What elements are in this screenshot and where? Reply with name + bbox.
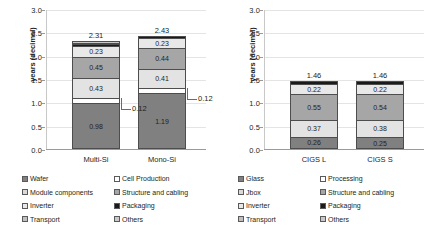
bar-segment[interactable]: 0.22 [356, 84, 404, 94]
legend-item[interactable]: Module components [22, 189, 114, 196]
legend-item[interactable]: Inverter [238, 202, 320, 209]
segment-value-label: 0.26 [307, 139, 321, 146]
segment-value-label: 0.22 [373, 86, 387, 93]
bar-segment[interactable]: 0.43 [72, 78, 120, 98]
segment-value-label: 0.37 [307, 125, 321, 132]
legend-swatch-icon [22, 189, 28, 195]
legend-swatch-icon [238, 203, 244, 209]
plot-area-right: 0.220.550.370.261.460.220.540.380.251.46 [264, 10, 424, 150]
callout-value-label: 0.12 [132, 104, 147, 113]
bar-segment[interactable]: 0.23 [138, 38, 186, 49]
bar-segment[interactable]: 0.54 [356, 94, 404, 119]
segment-value-label: 0.43 [89, 85, 103, 92]
legend-right: GlassProcessingJboxStructure and cabling… [238, 172, 430, 226]
y-tick-mark [260, 10, 263, 11]
gridline [264, 10, 424, 11]
y-tick-label: 0.5 [249, 122, 260, 131]
y-tick-mark [42, 103, 45, 104]
legend-item[interactable]: Transport [22, 216, 114, 223]
bar-segment[interactable]: 0.38 [356, 120, 404, 138]
segment-value-label: 0.23 [155, 40, 169, 47]
segment-value-label: 0.44 [155, 55, 169, 62]
bar-segment[interactable]: 0.23 [72, 46, 120, 57]
legend-item[interactable]: Cell Production [114, 175, 208, 182]
bar-segment[interactable]: 0.44 [138, 48, 186, 69]
x-axis-line-left [46, 149, 206, 150]
legend-item[interactable]: Others [320, 216, 430, 223]
x-axis-category-label: Mono-Si [120, 155, 204, 164]
legend-item-label: Wafer [30, 175, 48, 182]
segment-value-label: 0.54 [373, 104, 387, 111]
y-tick-label: 0.0 [31, 146, 42, 155]
plot-area-left: 0.230.450.430.982.310.230.440.411.192.43… [46, 10, 206, 150]
segment-value-label: 0.55 [307, 104, 321, 111]
legend-item[interactable]: Wafer [22, 175, 114, 182]
legend-item-label: Module components [30, 189, 93, 196]
y-tick-label: 1.5 [249, 76, 260, 85]
y-tick-label: 2.0 [249, 52, 260, 61]
legend-item-label: Cell Production [122, 175, 169, 182]
callout-leader-line [121, 98, 131, 110]
y-tick-mark [42, 80, 45, 81]
bar-segment[interactable]: 0.22 [290, 84, 338, 94]
bar-segment[interactable]: 0.37 [290, 120, 338, 137]
legend-swatch-icon [320, 203, 326, 209]
legend-item-label: Jbox [246, 189, 261, 196]
legend-swatch-icon [114, 176, 120, 182]
legend-swatch-icon [320, 189, 326, 195]
y-tick-mark [260, 33, 263, 34]
bar-segment[interactable]: 0.25 [356, 137, 404, 149]
legend-swatch-icon [114, 189, 120, 195]
legend-swatch-icon [22, 203, 28, 209]
legend-swatch-icon [114, 216, 120, 222]
legend-item[interactable]: Processing [320, 175, 430, 182]
y-tick-mark [42, 33, 45, 34]
legend-item-label: Transport [30, 216, 60, 223]
bar-segment[interactable]: 1.19 [138, 93, 186, 149]
legend-item[interactable]: Transport [238, 216, 320, 223]
callout-value-label: 0.12 [198, 94, 213, 103]
legend-item[interactable]: Structure and cabling [320, 189, 430, 196]
gridline [46, 10, 206, 11]
legend-swatch-icon [114, 203, 120, 209]
y-tick-label: 1.0 [31, 99, 42, 108]
bar-segment[interactable]: 0.98 [72, 103, 120, 149]
y-tick-mark [42, 127, 45, 128]
segment-value-label: 0.98 [89, 123, 103, 130]
bar-segment[interactable]: 0.26 [290, 137, 338, 149]
legend-item[interactable]: Structure and cabling [114, 189, 208, 196]
bar-segment[interactable]: 0.45 [72, 57, 120, 78]
chart-panel-right: years (decimal) 3.02.52.01.51.00.50.0 0.… [218, 0, 436, 236]
legend-item[interactable]: Packaging [320, 202, 430, 209]
y-tick-label: 2.5 [249, 29, 260, 38]
legend-item-label: Packaging [122, 202, 155, 209]
legend-swatch-icon [320, 176, 326, 182]
y-tick-label: 2.5 [31, 29, 42, 38]
legend-item[interactable]: Inverter [22, 202, 114, 209]
bar-segment[interactable]: 0.41 [138, 69, 186, 88]
y-axis-line-left [46, 10, 47, 150]
segment-value-label: 1.19 [155, 118, 169, 125]
y-tick-mark [260, 150, 263, 151]
legend-item-label: Glass [246, 175, 264, 182]
x-axis-line-right [264, 149, 424, 150]
legend-item[interactable]: Glass [238, 175, 320, 182]
stacked-bar[interactable]: 0.230.450.430.98 [72, 41, 120, 149]
stacked-bar[interactable]: 0.230.440.411.19 [138, 36, 186, 149]
stacked-bar[interactable]: 0.220.550.370.26 [290, 81, 338, 149]
y-tick-mark [42, 150, 45, 151]
y-tick-mark [260, 127, 263, 128]
segment-value-label: 0.38 [373, 125, 387, 132]
segment-value-label: 0.41 [155, 75, 169, 82]
legend-item[interactable]: Packaging [114, 202, 208, 209]
legend-left: WaferCell ProductionModule componentsStr… [22, 172, 208, 226]
legend-item[interactable]: Others [114, 216, 208, 223]
bar-segment[interactable]: 0.55 [290, 94, 338, 120]
legend-item[interactable]: Jbox [238, 189, 320, 196]
y-axis-ticks-left: 3.02.52.01.51.00.50.0 [12, 10, 42, 150]
bar-total-label: 2.31 [72, 31, 120, 40]
y-tick-label: 0.0 [249, 146, 260, 155]
legend-swatch-icon [320, 216, 326, 222]
stacked-bar[interactable]: 0.220.540.380.25 [356, 81, 404, 149]
legend-item-label: Transport [246, 216, 276, 223]
